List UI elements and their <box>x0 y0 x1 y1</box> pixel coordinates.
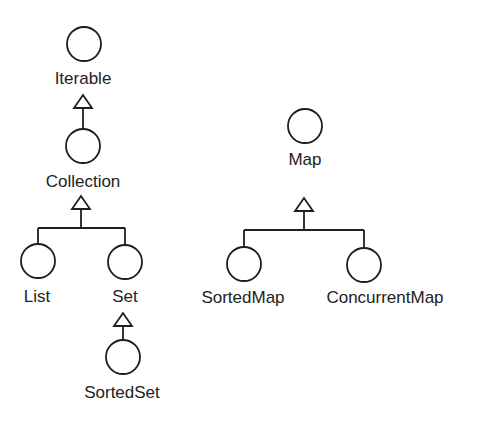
node-collection: Collection <box>46 129 121 191</box>
interface-circle-icon <box>227 247 261 281</box>
interface-circle-icon <box>67 27 101 61</box>
node-map: Map <box>288 109 322 169</box>
node-sortedmap: SortedMap <box>201 247 284 307</box>
node-label-list: List <box>24 287 51 306</box>
node-label-collection: Collection <box>46 172 121 191</box>
node-sortedset: SortedSet <box>84 340 160 402</box>
interface-circle-icon <box>108 245 142 279</box>
node-label-map: Map <box>288 150 321 169</box>
interface-circle-icon <box>66 129 100 163</box>
inheritance-arrowhead-icon <box>114 313 132 326</box>
node-iterable: Iterable <box>55 27 112 88</box>
edge-sortedset-to-set <box>114 313 132 340</box>
edge-list-set-to-collection <box>38 196 125 245</box>
node-label-concurrentmap: ConcurrentMap <box>326 288 443 307</box>
node-label-set: Set <box>112 287 138 306</box>
node-set: Set <box>108 245 142 306</box>
node-label-iterable: Iterable <box>55 69 112 88</box>
node-label-sortedmap: SortedMap <box>201 288 284 307</box>
interface-circle-icon <box>21 244 55 278</box>
interface-hierarchy-diagram: Iterable Collection List Set SortedSet <box>0 0 482 424</box>
interface-circle-icon <box>106 340 140 374</box>
node-concurrentmap: ConcurrentMap <box>326 248 443 307</box>
node-list: List <box>21 244 55 306</box>
inheritance-arrowhead-icon <box>74 95 92 108</box>
edge-collection-to-iterable <box>74 95 92 129</box>
inheritance-arrowhead-icon <box>72 196 90 209</box>
interface-circle-icon <box>347 248 381 282</box>
inheritance-arrowhead-icon <box>295 198 313 211</box>
edge-sortedmap-concurrentmap-to-map <box>244 198 364 248</box>
interface-circle-icon <box>288 109 322 143</box>
node-label-sortedset: SortedSet <box>84 383 160 402</box>
